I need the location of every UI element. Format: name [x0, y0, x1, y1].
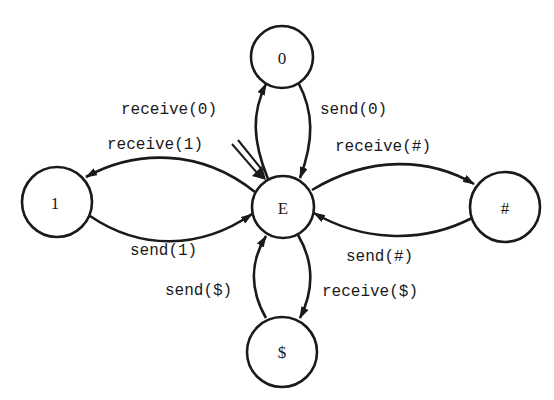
label-receive-hash: receive(#): [335, 138, 431, 156]
edge-send-0: [298, 82, 310, 178]
node-label-E: E: [278, 199, 288, 218]
node-0: 0: [251, 26, 313, 88]
node-label-1: 1: [51, 194, 60, 213]
state-diagram: E 0 1 # $ receive(0) send(0) receive(1) …: [0, 0, 554, 400]
edge-send-1: [90, 214, 252, 241]
label-send-hash: send(#): [346, 248, 413, 266]
label-receive-dollar: receive($): [322, 283, 418, 301]
node-E: E: [252, 176, 314, 238]
edge-receive-hash: [312, 164, 474, 190]
node-1: 1: [22, 167, 92, 237]
edge-receive-1: [86, 158, 255, 192]
label-receive-0: receive(0): [121, 101, 217, 119]
label-send-0: send(0): [320, 101, 387, 119]
edge-receive-dollar: [298, 235, 310, 318]
node-label-hash: #: [501, 199, 510, 218]
node-label-dollar: $: [278, 343, 287, 362]
label-send-1: send(1): [130, 242, 197, 260]
node-label-0: 0: [278, 49, 287, 68]
edge-send-dollar: [254, 236, 266, 318]
label-receive-1: receive(1): [107, 136, 203, 154]
node-dollar: $: [247, 317, 317, 387]
label-send-dollar: send($): [165, 282, 232, 300]
node-hash: #: [470, 172, 540, 242]
edge-send-hash: [314, 213, 472, 236]
